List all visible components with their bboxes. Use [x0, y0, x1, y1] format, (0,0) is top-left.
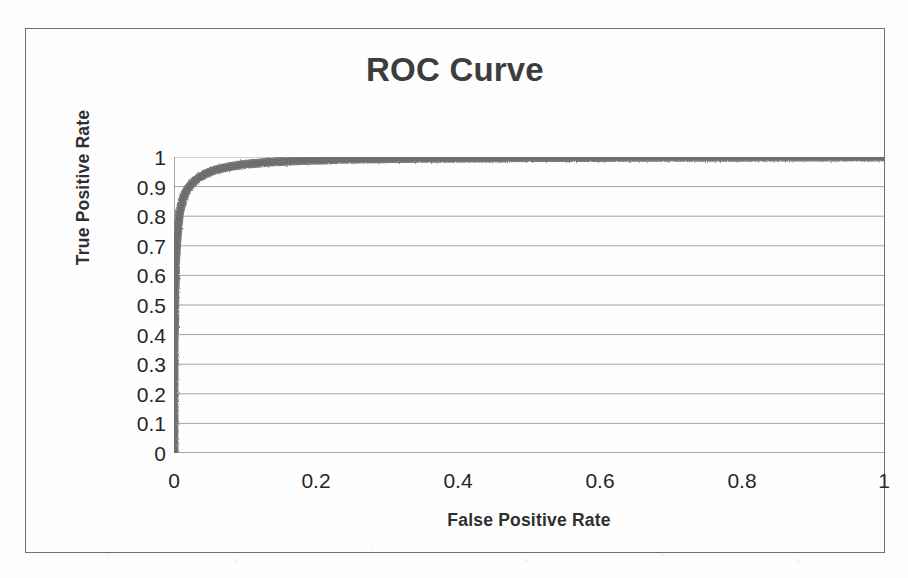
chart-title: ROC Curve	[26, 51, 884, 89]
x-axis-tick-labels: 00.20.40.60.81	[174, 470, 884, 498]
y-axis-tick-label: 1	[110, 147, 166, 168]
x-axis-tick-label: 0.2	[281, 470, 351, 491]
y-axis-tick-label: 0.2	[110, 383, 166, 404]
y-axis-tick-label: 0.8	[110, 206, 166, 227]
y-axis-tick-label: 0.9	[110, 176, 166, 197]
roc-curve-plot	[174, 157, 884, 453]
y-axis-tick-label: 0.7	[110, 235, 166, 256]
y-axis-tick-label: 0.3	[110, 354, 166, 375]
x-axis-tick-label: 0.4	[423, 470, 493, 491]
y-axis-tick-label: 0.1	[110, 413, 166, 434]
y-axis-tick-label: 0.5	[110, 295, 166, 316]
y-axis-tick-label: 0.4	[110, 324, 166, 345]
x-axis-tick-label: 0.8	[707, 470, 777, 491]
y-axis-title: True Positive Rate	[73, 73, 94, 303]
y-axis-tick-labels: 00.10.20.30.40.50.60.70.80.91	[104, 157, 166, 453]
chart-frame: ROC Curve True Positive Rate False Posit…	[25, 28, 885, 553]
x-axis-tick-label: 0.6	[565, 470, 635, 491]
plot-area	[174, 157, 884, 453]
x-axis-tick-label: 0	[139, 470, 209, 491]
gridlines	[174, 157, 884, 423]
x-axis-title: False Positive Rate	[174, 510, 884, 531]
x-axis-tick-label: 1	[849, 470, 908, 491]
y-axis-tick-label: 0	[110, 443, 166, 464]
y-axis-tick-label: 0.6	[110, 265, 166, 286]
